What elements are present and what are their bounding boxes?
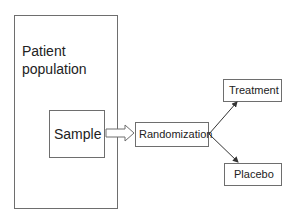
block-arrow-icon bbox=[106, 125, 134, 141]
connectors-layer bbox=[0, 0, 298, 220]
arrow-to-placebo bbox=[209, 134, 238, 162]
arrow-to-treatment bbox=[209, 102, 237, 134]
